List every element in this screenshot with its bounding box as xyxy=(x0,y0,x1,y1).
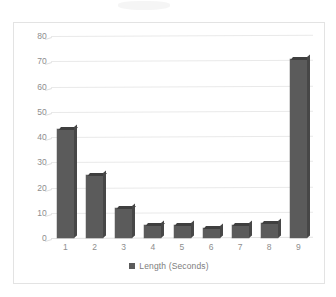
y-axis: 01020304050607080 xyxy=(19,36,47,238)
y-axis-tick-label: 60 xyxy=(21,82,47,92)
bar-side-face xyxy=(191,221,194,238)
bar-column xyxy=(203,36,220,238)
y-axis-tick-label: 20 xyxy=(21,183,47,193)
bar-column xyxy=(86,36,103,238)
bar-column xyxy=(115,36,132,238)
y-axis-tick-label: 0 xyxy=(21,233,47,243)
x-axis: 123456789 xyxy=(51,242,313,258)
y-axis-tick-label: 50 xyxy=(21,107,47,117)
bar-side-face xyxy=(132,204,135,238)
bar-side-face xyxy=(249,221,252,238)
x-axis-tick-label: 4 xyxy=(138,242,167,252)
bar-side-face xyxy=(278,219,281,238)
bar-column xyxy=(144,36,161,238)
bar xyxy=(290,59,307,238)
bar-column xyxy=(290,36,307,238)
y-axis-tick-label: 70 xyxy=(21,56,47,66)
bar xyxy=(203,228,220,238)
x-axis-tick-label: 3 xyxy=(109,242,138,252)
x-axis-tick-label: 6 xyxy=(197,242,226,252)
bar-side-face xyxy=(103,171,106,238)
x-axis-tick-label: 9 xyxy=(284,242,313,252)
bar xyxy=(174,225,191,238)
bar-column xyxy=(57,36,74,238)
bar-column xyxy=(232,36,249,238)
y-axis-tick-label: 30 xyxy=(21,157,47,167)
y-axis-tick-label: 40 xyxy=(21,132,47,142)
x-axis-tick-label: 2 xyxy=(80,242,109,252)
y-axis-tick-label: 80 xyxy=(21,31,47,41)
bar-side-face xyxy=(74,125,77,238)
x-axis-tick-label: 7 xyxy=(226,242,255,252)
bar-side-face xyxy=(307,55,310,238)
bar xyxy=(144,225,161,238)
bar-side-face xyxy=(220,224,223,238)
legend-label: Length (Seconds) xyxy=(139,261,209,271)
bars-group xyxy=(51,36,313,238)
bar xyxy=(261,223,278,238)
bar xyxy=(86,175,103,238)
x-axis-tick-label: 5 xyxy=(167,242,196,252)
bar-chart: 01020304050607080 123456789 Length (Seco… xyxy=(13,22,325,284)
x-axis-tick-label: 8 xyxy=(255,242,284,252)
scan-artifact xyxy=(118,1,170,10)
bar xyxy=(115,208,132,238)
bar xyxy=(57,129,74,238)
legend-swatch-icon xyxy=(129,263,135,269)
bar xyxy=(232,225,249,238)
x-axis-tick-label: 1 xyxy=(51,242,80,252)
y-axis-tick-label: 10 xyxy=(21,208,47,218)
bar-column xyxy=(174,36,191,238)
bar-column xyxy=(261,36,278,238)
chart-legend: Length (Seconds) xyxy=(14,261,324,271)
